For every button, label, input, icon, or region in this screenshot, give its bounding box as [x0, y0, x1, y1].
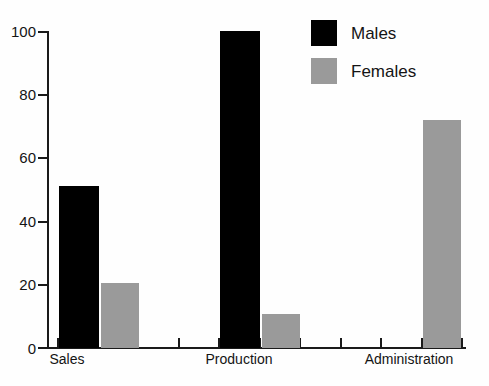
- legend-item-males: Males: [311, 20, 461, 46]
- x-category-label-sales: Sales: [27, 352, 107, 367]
- legend-label-females: Females: [351, 63, 416, 80]
- bar-administration-females: [423, 120, 461, 348]
- bar-production-males: [220, 31, 260, 348]
- y-tick-40: [38, 221, 48, 223]
- legend-swatch-females-icon: [311, 58, 337, 84]
- y-tick-20: [38, 284, 48, 286]
- legend-item-females: Females: [311, 58, 461, 84]
- y-tick-0: [38, 347, 48, 349]
- legend-label-males: Males: [351, 25, 396, 42]
- y-tick-label-group: 100 80 60 40 20 0: [0, 0, 36, 386]
- y-tick-label-60: 60: [2, 150, 36, 165]
- y-tick-label-40: 40: [2, 214, 36, 229]
- legend-swatch-males-icon: [311, 20, 337, 46]
- bar-production-females: [262, 314, 300, 348]
- x-category-label-administration: Administration: [339, 352, 479, 367]
- y-tick-label-20: 20: [2, 277, 36, 292]
- y-tick-100: [38, 31, 48, 33]
- bar-chart: 100 80 60 40 20 0 Sales Production Admin…: [0, 0, 489, 386]
- y-tick-60: [38, 157, 48, 159]
- y-tick-80: [38, 94, 48, 96]
- chart-legend: Males Females: [311, 20, 461, 96]
- y-tick-label-80: 80: [2, 87, 36, 102]
- x-category-label-production: Production: [189, 352, 289, 367]
- bar-sales-males: [59, 186, 99, 348]
- y-tick-label-100: 100: [2, 24, 36, 39]
- bar-sales-females: [101, 283, 139, 348]
